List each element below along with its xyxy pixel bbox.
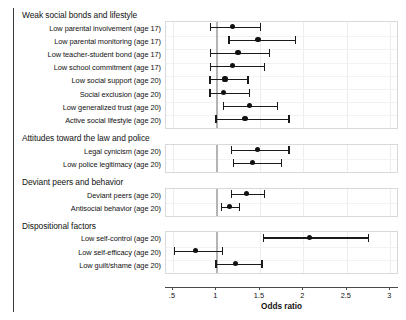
ci-cap-low [209, 89, 210, 97]
confidence-interval-line [210, 66, 265, 67]
point-estimate-marker [233, 261, 238, 266]
point-estimate-marker [247, 103, 252, 108]
ci-cap-high [249, 89, 250, 97]
ci-cap-low [215, 115, 216, 123]
point-estimate-marker [230, 24, 235, 29]
estimate-row [0, 49, 406, 58]
ci-cap-low [210, 23, 211, 31]
group-title-2: Deviant peers and behavior [22, 177, 123, 187]
estimate-row [0, 159, 406, 168]
ci-cap-high [269, 49, 270, 57]
point-estimate-marker [255, 37, 260, 42]
group-title-3: Dispositional factors [22, 221, 96, 231]
ci-cap-high [261, 260, 262, 268]
ci-cap-high [247, 76, 248, 84]
ci-cap-low [210, 63, 211, 71]
confidence-interval-line [263, 237, 369, 238]
confidence-interval-line [209, 93, 250, 94]
point-estimate-marker [235, 50, 240, 55]
ci-cap-low [174, 247, 175, 255]
confidence-interval-line [174, 251, 224, 252]
point-estimate-marker [193, 248, 198, 253]
x-axis-tick-label-1.5: 1.5 [254, 291, 264, 300]
confidence-interval-line [233, 163, 282, 164]
x-axis-tick-.5 [172, 287, 173, 290]
x-axis-tick-2.5 [346, 287, 347, 290]
estimate-row [0, 75, 406, 84]
ci-cap-low [210, 49, 211, 57]
point-estimate-marker [250, 160, 255, 165]
ci-cap-low [228, 36, 229, 44]
ci-cap-low [231, 190, 232, 198]
ci-cap-high [288, 115, 289, 123]
x-axis-title: Odds ratio [165, 302, 398, 311]
point-estimate-marker [222, 76, 227, 81]
group-title-1: Attitudes toward the law and police [22, 133, 150, 143]
ci-cap-high [281, 159, 282, 167]
group-title-0: Weak social bonds and lifestyle [22, 10, 137, 20]
estimate-row [0, 62, 406, 71]
ci-cap-low [215, 260, 216, 268]
x-axis-line [165, 287, 398, 288]
confidence-interval-line [210, 27, 260, 28]
ci-cap-high [264, 190, 265, 198]
confidence-interval-line [228, 40, 296, 41]
ci-cap-low [221, 203, 222, 211]
estimate-row [0, 190, 406, 199]
estimate-row [0, 115, 406, 124]
forest-plot-figure: Weak social bonds and lifestyleLow paren… [0, 0, 406, 320]
point-estimate-marker [307, 235, 312, 240]
x-axis-tick-1.5 [259, 287, 260, 290]
ci-cap-high [368, 234, 369, 242]
ci-cap-high [277, 102, 278, 110]
estimate-row [0, 23, 406, 32]
x-axis-tick-label-2.5: 2.5 [341, 291, 351, 300]
estimate-row [0, 247, 406, 256]
confidence-interval-line [209, 79, 248, 80]
x-axis-tick-label-2: 2 [300, 291, 304, 300]
ci-cap-high [288, 146, 289, 154]
point-estimate-marker [227, 204, 232, 209]
confidence-interval-line [231, 150, 289, 151]
ci-cap-high [264, 63, 265, 71]
ci-cap-high [295, 36, 296, 44]
x-axis-tick-1 [215, 287, 216, 290]
point-estimate-marker [244, 191, 249, 196]
ci-cap-low [231, 146, 232, 154]
point-estimate-marker [230, 63, 235, 68]
x-axis-tick-label-1: 1 [213, 291, 217, 300]
x-axis-tick-label-.5: .5 [169, 291, 175, 300]
x-axis-tick-2 [302, 287, 303, 290]
point-estimate-marker [255, 147, 260, 152]
point-estimate-marker [221, 90, 226, 95]
x-axis-tick-label-3: 3 [387, 291, 391, 300]
ci-cap-low [223, 102, 224, 110]
x-axis-tick-3 [389, 287, 390, 290]
confidence-interval-line [215, 119, 289, 120]
estimate-row [0, 260, 406, 269]
ci-cap-low [233, 159, 234, 167]
estimate-row [0, 146, 406, 155]
ci-cap-high [239, 203, 240, 211]
estimate-row [0, 233, 406, 242]
estimate-row [0, 102, 406, 111]
ci-cap-high [222, 247, 223, 255]
estimate-row [0, 36, 406, 45]
estimate-row [0, 89, 406, 98]
ci-cap-low [263, 234, 264, 242]
ci-cap-high [260, 23, 261, 31]
ci-cap-low [209, 76, 210, 84]
confidence-interval-line [215, 264, 262, 265]
point-estimate-marker [242, 116, 247, 121]
estimate-row [0, 203, 406, 212]
